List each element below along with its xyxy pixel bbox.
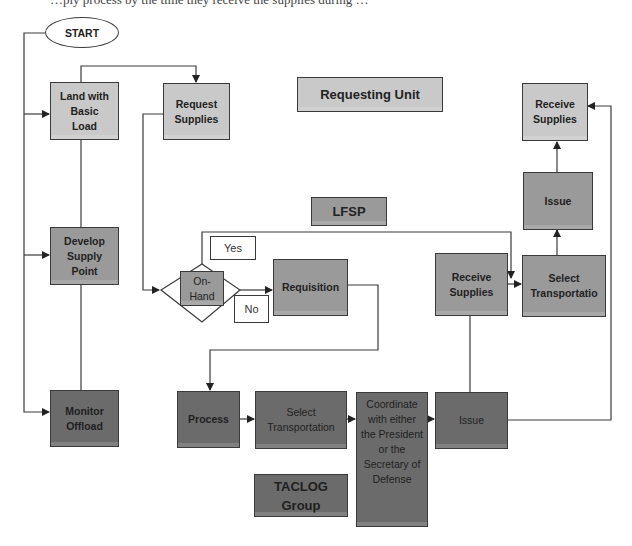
taclog-group-label: TACLOG Group bbox=[254, 474, 348, 517]
process-node: Process bbox=[177, 391, 240, 448]
taclog-select-transportation-node: Select Transportation bbox=[255, 391, 347, 449]
start-terminal: START bbox=[45, 17, 119, 48]
unit-receive-supplies-node: Receive Supplies bbox=[522, 83, 588, 141]
coordinate-node: Coordinate with either the President or … bbox=[356, 392, 428, 527]
request-supplies-node: Request Supplies bbox=[163, 83, 230, 140]
land-with-basic-load-node: Land with Basic Load bbox=[50, 82, 119, 140]
lfsp-receive-supplies-node: Receive Supplies bbox=[435, 253, 508, 316]
yes-label: Yes bbox=[210, 236, 256, 260]
monitor-offload-node: Monitor Offload bbox=[50, 390, 119, 447]
lfsp-issue-node: Issue bbox=[523, 172, 593, 230]
develop-supply-point-node: Develop Supply Point bbox=[50, 227, 119, 285]
requesting-unit-label: Requesting Unit bbox=[297, 77, 443, 112]
no-label: No bbox=[234, 295, 269, 323]
requisition-node: Requisition bbox=[273, 259, 348, 316]
taclog-issue-node: Issue bbox=[435, 392, 508, 449]
on-hand-decision: On-Hand bbox=[180, 271, 224, 306]
lfsp-select-transportation-node: Select Transportatio bbox=[522, 255, 606, 317]
lfsp-label: LFSP bbox=[311, 197, 387, 226]
